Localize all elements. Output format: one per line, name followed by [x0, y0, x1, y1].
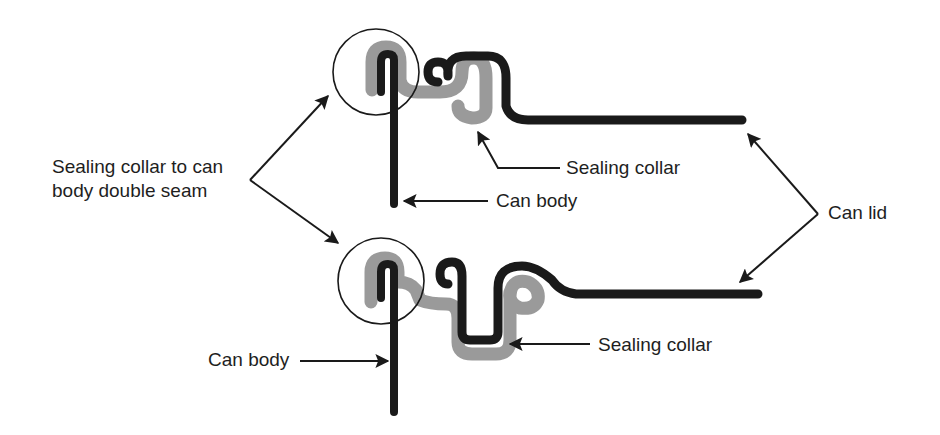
bottom-can-body-label: Can body — [208, 349, 289, 371]
top-sealing-collar-label: Sealing collar — [566, 157, 680, 179]
top-can-body-shape — [381, 54, 394, 204]
lid-arrow-top — [748, 134, 818, 214]
top-can-lid-shape — [428, 56, 742, 120]
top-can-body-label: Can body — [496, 190, 577, 212]
seam-label-line2: body double seam — [52, 180, 207, 202]
bottom-can-body-shape — [381, 264, 394, 412]
seam-arrow-top — [250, 96, 328, 180]
arrows — [250, 96, 818, 361]
bottom-seam — [338, 238, 758, 412]
can-lid-label: Can lid — [828, 202, 887, 224]
bottom-sealing-collar-label: Sealing collar — [598, 334, 712, 356]
seam-diagram-graphic — [0, 0, 940, 435]
seam-label-line1: Sealing collar to can — [52, 156, 223, 178]
top-collar-arrow — [478, 132, 560, 168]
lid-arrow-bottom — [740, 214, 818, 282]
seam-arrow-bottom — [250, 180, 338, 243]
diagram-canvas: Sealing collar to can body double seam S… — [0, 0, 940, 435]
bottom-can-lid-shape — [440, 262, 758, 340]
top-seam — [333, 29, 742, 204]
